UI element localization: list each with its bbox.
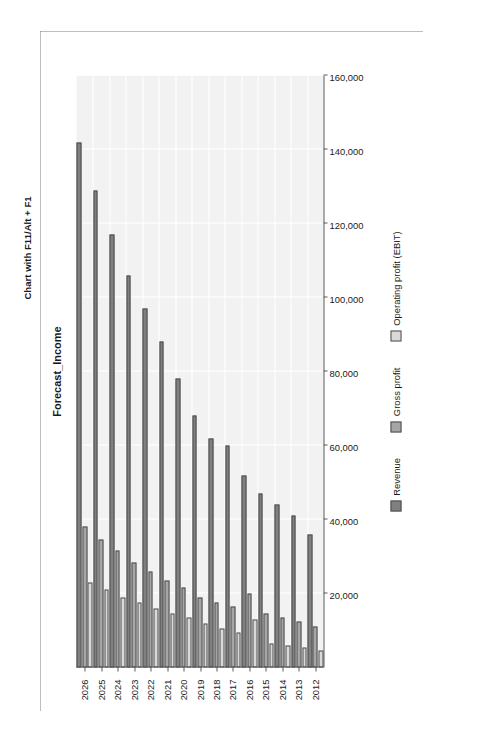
bar-revenue-2018: [208, 438, 213, 667]
bar-gross-profit-2023: [131, 562, 136, 667]
value-axis-label: 100,000: [329, 293, 363, 304]
figure-caption-text: Chart with F11/Alt + F1: [22, 196, 33, 299]
category-axis-label-2021: 2021: [161, 679, 172, 700]
bar-gross-profit-2021: [164, 580, 169, 667]
bar-operating-profit-ebit-2025: [104, 589, 109, 667]
bar-gross-profit-2015: [263, 613, 268, 667]
bar-operating-profit-ebit-2019: [203, 623, 208, 667]
legend-label: Gross profit: [390, 367, 401, 415]
category-axis-label-2020: 2020: [177, 679, 188, 700]
bar-revenue-2015: [258, 493, 263, 667]
value-axis-label: 40,000: [329, 515, 358, 526]
category-axis-tick: [183, 667, 184, 671]
bar-operating-profit-ebit-2016: [252, 619, 257, 667]
gridline-vertical: [76, 222, 323, 223]
category-axis-tick: [200, 667, 201, 671]
bar-operating-profit-ebit-2015: [269, 643, 274, 667]
bar-operating-profit-ebit-2012: [318, 650, 323, 667]
value-axis-label: 140,000: [329, 145, 363, 156]
legend-swatch-icon: [390, 421, 401, 432]
bar-gross-profit-2013: [296, 621, 301, 667]
bar-operating-profit-ebit-2023: [137, 602, 142, 667]
chart-container: Forecast_Income RevenueGross profitOpera…: [40, 31, 423, 711]
value-axis-tick: [323, 518, 327, 519]
category-axis-label-2012: 2012: [309, 679, 320, 700]
category-axis-tick: [134, 667, 135, 671]
category-axis-tick: [150, 667, 151, 671]
legend-item: Operating profit (EBIT): [390, 231, 401, 341]
bar-gross-profit-2017: [230, 606, 235, 667]
category-axis-tick: [265, 667, 266, 671]
value-axis-tick: [323, 74, 327, 75]
chart-stage: Forecast_Income RevenueGross profitOpera…: [40, 31, 423, 711]
bar-revenue-2016: [241, 475, 246, 667]
bar-revenue-2026: [76, 142, 81, 667]
gridline-vertical: [76, 74, 323, 75]
bar-revenue-2020: [175, 378, 180, 667]
bar-gross-profit-2018: [214, 602, 219, 667]
bar-revenue-2022: [142, 308, 147, 667]
bar-gross-profit-2024: [115, 550, 120, 667]
bar-operating-profit-ebit-2013: [302, 647, 307, 667]
bar-revenue-2014: [274, 504, 279, 667]
bar-revenue-2013: [291, 515, 296, 667]
value-axis-tick: [323, 370, 327, 371]
bar-operating-profit-ebit-2022: [153, 608, 158, 667]
value-axis-label: 20,000: [329, 589, 358, 600]
category-axis-tick: [298, 667, 299, 671]
bar-revenue-2012: [307, 534, 312, 667]
category-axis-label-2014: 2014: [276, 679, 287, 700]
bar-operating-profit-ebit-2018: [219, 628, 224, 667]
category-axis-tick: [84, 667, 85, 671]
category-axis-tick: [117, 667, 118, 671]
value-axis-label: 60,000: [329, 441, 358, 452]
value-axis-tick: [323, 296, 327, 297]
bar-gross-profit-2016: [247, 593, 252, 667]
bar-operating-profit-ebit-2024: [120, 597, 125, 667]
category-axis-tick: [216, 667, 217, 671]
category-axis-label-2015: 2015: [259, 679, 270, 700]
value-axis-tick: [323, 592, 327, 593]
bar-gross-profit-2022: [148, 571, 153, 667]
category-axis-label-2017: 2017: [226, 679, 237, 700]
bar-revenue-2024: [109, 234, 114, 667]
bar-gross-profit-2025: [98, 539, 103, 667]
category-axis-tick: [232, 667, 233, 671]
bar-revenue-2019: [192, 415, 197, 667]
category-axis-tick: [282, 667, 283, 671]
bar-gross-profit-2026: [82, 526, 87, 667]
legend-item: Revenue: [390, 458, 401, 512]
value-axis-tick: [323, 222, 327, 223]
category-axis-label-2026: 2026: [78, 679, 89, 700]
chart-legend: RevenueGross profitOperating profit (EBI…: [385, 75, 405, 667]
legend-item: Gross profit: [390, 367, 401, 431]
value-axis-tick: [323, 444, 327, 445]
plot-area: [76, 75, 323, 667]
bar-gross-profit-2019: [197, 597, 202, 667]
legend-label: Revenue: [390, 458, 401, 496]
value-axis-label: 120,000: [329, 219, 363, 230]
category-axis-label-2024: 2024: [111, 679, 122, 700]
chart-title: Forecast_Income: [50, 31, 62, 711]
bar-operating-profit-ebit-2014: [285, 645, 290, 667]
legend-swatch-icon: [390, 330, 401, 341]
category-axis-tick: [101, 667, 102, 671]
bar-operating-profit-ebit-2021: [170, 613, 175, 667]
value-axis-tick: [323, 148, 327, 149]
category-axis-label-2018: 2018: [210, 679, 221, 700]
category-axis-label-2023: 2023: [128, 679, 139, 700]
gridline-vertical: [76, 148, 323, 149]
bar-revenue-2017: [225, 445, 230, 667]
bar-revenue-2025: [93, 190, 98, 667]
category-axis-label-2013: 2013: [292, 679, 303, 700]
category-axis-tick: [167, 667, 168, 671]
bar-revenue-2023: [126, 275, 131, 667]
bar-operating-profit-ebit-2020: [186, 617, 191, 667]
category-axis-label-2016: 2016: [243, 679, 254, 700]
bar-gross-profit-2012: [312, 626, 317, 667]
category-axis-tick: [315, 667, 316, 671]
legend-label: Operating profit (EBIT): [390, 231, 401, 325]
legend-swatch-icon: [390, 500, 401, 511]
category-axis-label-2019: 2019: [194, 679, 205, 700]
value-axis-label: 80,000: [329, 367, 358, 378]
